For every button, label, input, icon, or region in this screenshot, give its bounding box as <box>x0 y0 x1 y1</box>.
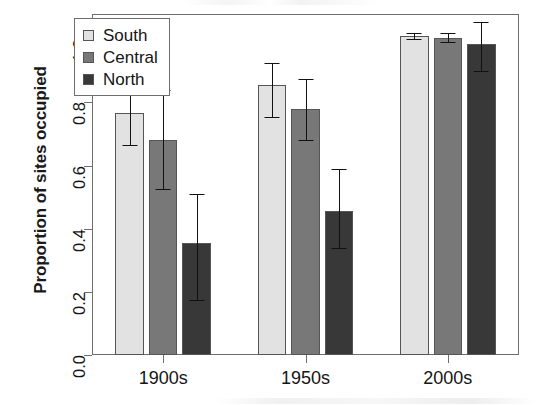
legend-label-central: Central <box>103 49 158 66</box>
error-bar-line-north-2000s <box>481 22 482 71</box>
error-bar-cap-upper-north-1900s <box>189 194 204 195</box>
bar-south-1900s <box>115 113 144 355</box>
error-bar-cap-upper-central-1950s <box>298 79 313 80</box>
legend-label-south: South <box>103 27 147 44</box>
bar-north-2000s <box>467 44 496 355</box>
x-axis-tick-mark <box>163 355 164 363</box>
figure-bar-chart-proportion-sites-occupied: Proportion of sites occupied 0.00.20.40.… <box>0 0 546 405</box>
legend-item-south: South <box>83 24 158 46</box>
error-bar-line-central-1950s <box>306 79 307 141</box>
y-axis-title: Proportion of sites occupied <box>31 20 51 340</box>
x-axis-tick-label: 2000s <box>423 368 472 389</box>
error-bar-cap-lower-central-1900s <box>156 189 171 190</box>
legend-label-north: North <box>103 71 145 88</box>
y-axis-tick-label: 0.0 <box>71 355 90 378</box>
legend-item-central: Central <box>83 46 158 68</box>
bar-central-2000s <box>434 38 463 355</box>
bar-south-1950s <box>258 85 287 355</box>
error-bar-line-north-1950s <box>339 169 340 248</box>
legend-swatch-central-icon <box>83 52 94 63</box>
legend-item-north: North <box>83 68 158 90</box>
error-bar-line-central-1900s <box>163 90 164 189</box>
x-axis-tick-mark <box>448 355 449 363</box>
x-axis-tick-label: 1900s <box>139 368 188 389</box>
error-bar-cap-lower-north-2000s <box>474 71 489 72</box>
error-bar-cap-upper-north-1950s <box>332 169 347 170</box>
scan-artifact-bottom <box>215 398 535 404</box>
error-bar-cap-lower-south-1900s <box>122 145 137 146</box>
y-axis-tick-label: 0.4 <box>71 229 90 252</box>
x-axis-tick-label: 1950s <box>281 368 330 389</box>
legend-swatch-north-icon <box>83 74 94 85</box>
error-bar-cap-lower-central-2000s <box>440 42 455 43</box>
error-bar-cap-upper-south-2000s <box>407 33 422 34</box>
scan-artifact-top <box>180 0 380 5</box>
y-axis-tick-label: 0.2 <box>71 292 90 315</box>
error-bar-cap-upper-south-1950s <box>265 63 280 64</box>
error-bar-line-central-2000s <box>448 33 449 42</box>
y-axis-tick-label: 0.8 <box>71 102 90 125</box>
error-bar-cap-lower-south-1950s <box>265 117 280 118</box>
error-bar-cap-lower-central-1950s <box>298 140 313 141</box>
error-bar-line-south-1950s <box>272 63 273 117</box>
error-bar-cap-lower-south-2000s <box>407 39 422 40</box>
bar-central-1950s <box>291 109 320 355</box>
error-bar-cap-upper-central-2000s <box>440 33 455 34</box>
error-bar-cap-upper-north-2000s <box>474 22 489 23</box>
y-axis-tick-label: 0.6 <box>71 166 90 189</box>
error-bar-cap-lower-north-1900s <box>189 300 204 301</box>
legend-swatch-south-icon <box>83 30 94 41</box>
error-bar-cap-lower-north-1950s <box>332 248 347 249</box>
legend: South Central North <box>74 18 170 96</box>
x-axis-tick-mark <box>306 355 307 363</box>
error-bar-line-north-1900s <box>197 194 198 300</box>
bar-south-2000s <box>400 36 429 355</box>
